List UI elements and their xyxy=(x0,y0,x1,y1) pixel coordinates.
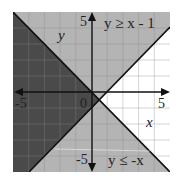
tick-y-neg5: -5 xyxy=(76,153,88,167)
tick-x-5: 5 xyxy=(158,97,165,111)
tick-y-5: 5 xyxy=(80,15,87,29)
x-axis-label: x xyxy=(146,115,153,130)
inequality-label-2: y ≤ -x xyxy=(108,153,144,168)
tick-origin: 0 xyxy=(80,97,87,111)
inequality-label-1: y ≥ x - 1 xyxy=(104,16,155,31)
y-axis-label: y xyxy=(58,28,65,43)
tick-x-neg5: -5 xyxy=(15,97,27,111)
